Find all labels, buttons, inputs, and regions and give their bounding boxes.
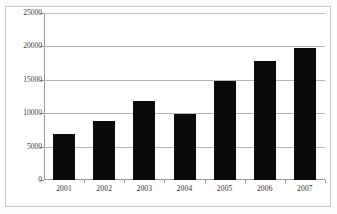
bar-chart: 0500010000150002000025000 20012002200320… — [0, 0, 337, 214]
x-axis-label: 2007 — [285, 184, 325, 193]
bar — [214, 81, 236, 180]
x-axis-tick — [205, 180, 206, 183]
x-axis-label: 2003 — [124, 184, 164, 193]
bar — [294, 48, 316, 180]
x-axis-label: 2002 — [84, 184, 124, 193]
y-axis-label: 5000 — [0, 143, 47, 151]
bar — [254, 61, 276, 180]
x-axis-tick — [84, 180, 85, 183]
cropped-chart-title — [0, 0, 337, 5]
x-axis-tick — [124, 180, 125, 183]
y-axis-label: 15000 — [0, 76, 47, 84]
y-axis-label: 20000 — [0, 42, 47, 50]
bars — [44, 13, 325, 180]
bar — [174, 114, 196, 180]
x-axis-tick — [285, 180, 286, 183]
x-axis-tick — [325, 180, 326, 183]
bar — [133, 101, 155, 180]
x-axis-label: 2004 — [165, 184, 205, 193]
x-axis-tick — [164, 180, 165, 183]
x-axis-label: 2005 — [205, 184, 245, 193]
y-axis-label: 25000 — [0, 9, 47, 17]
x-axis-label: 2001 — [44, 184, 84, 193]
x-axis-tick — [245, 180, 246, 183]
bar — [93, 121, 115, 180]
x-axis-label: 2006 — [245, 184, 285, 193]
y-axis-label: 0 — [0, 176, 47, 184]
y-axis-label: 10000 — [0, 109, 47, 117]
bar — [53, 134, 75, 180]
